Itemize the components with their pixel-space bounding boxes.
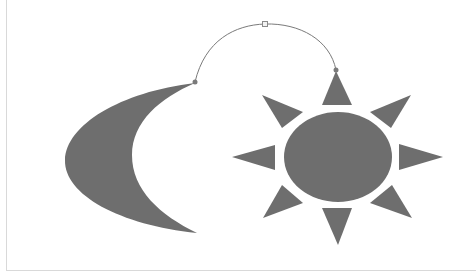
sun-ray-bottom [322, 208, 352, 245]
moon-shape[interactable] [65, 83, 197, 233]
connector-start-handle[interactable] [193, 80, 198, 85]
curved-connector[interactable] [195, 24, 336, 82]
connector-end-handle[interactable] [334, 68, 339, 73]
sun-ray-left [232, 145, 275, 170]
sun-ray-top [322, 71, 352, 105]
sun-ray-right [399, 144, 443, 170]
sun-ray-top-left [262, 95, 303, 128]
connector-control-handle[interactable] [263, 22, 268, 27]
sun-ray-bottom-right [370, 185, 412, 218]
drawing-canvas[interactable] [0, 0, 476, 278]
sun-core [284, 112, 392, 202]
sun-ray-top-right [370, 95, 411, 128]
sun-shape[interactable] [232, 71, 443, 245]
sun-ray-bottom-left [263, 185, 303, 218]
